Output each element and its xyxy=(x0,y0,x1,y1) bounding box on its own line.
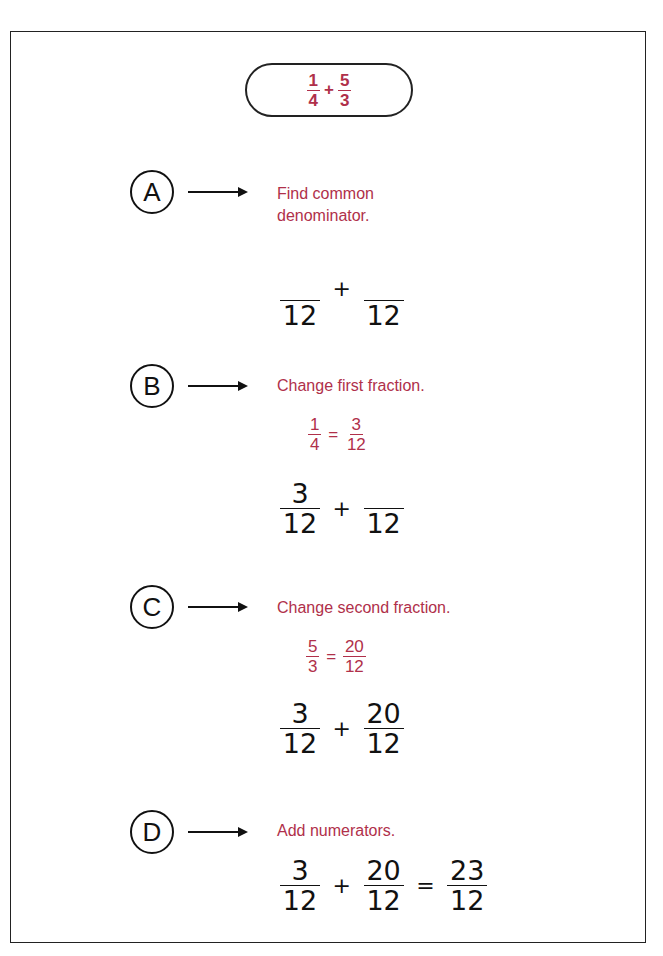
step-b-marker: B xyxy=(130,364,174,408)
step-d-work: 3 12 + 20 12 = 23 12 xyxy=(280,857,487,914)
plus-sign: + xyxy=(324,80,334,100)
arrow-icon xyxy=(188,385,246,387)
step-a-instruction: Find common denominator. xyxy=(277,183,374,227)
fraction-one-fourth: 1 4 xyxy=(307,72,320,109)
step-b-work: 3 12 + 12 xyxy=(280,480,404,537)
arrow-icon xyxy=(188,606,246,608)
fraction-five-thirds: 5 3 xyxy=(338,72,351,109)
step-c-conversion: 5 3 = 20 12 xyxy=(306,638,366,675)
arrow-icon xyxy=(188,191,246,193)
step-c-marker: C xyxy=(130,585,174,629)
step-d-instruction: Add numerators. xyxy=(277,820,395,842)
step-b-conversion: 1 4 = 3 12 xyxy=(308,416,368,453)
step-d-marker: D xyxy=(130,810,174,854)
arrow-icon xyxy=(188,831,246,833)
problem-expression: 1 4 + 5 3 xyxy=(245,63,413,117)
step-c-work: 3 12 + 20 12 xyxy=(280,700,404,757)
step-b-instruction: Change first fraction. xyxy=(277,375,425,397)
step-a-work: 12 + 12 xyxy=(280,272,404,329)
step-a-marker: A xyxy=(130,170,174,214)
step-c-instruction: Change second fraction. xyxy=(277,597,450,619)
